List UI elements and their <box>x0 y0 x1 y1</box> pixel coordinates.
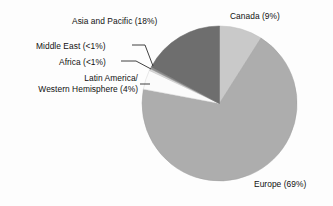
pie-label-latin-america: Latin America/ Western Hemisphere (4%) <box>16 73 138 94</box>
pie-label-latin-america-line2: Western Hemisphere (4%) <box>16 84 138 95</box>
pie-label-europe: Europe (69%) <box>254 179 306 190</box>
pie-label-asia-pacific: Asia and Pacific (18%) <box>72 16 157 27</box>
leader-line-africa <box>121 61 151 69</box>
pie-label-africa: Africa (<1%) <box>59 57 106 68</box>
pie-label-latin-america-line1: Latin America/ <box>16 73 138 84</box>
leader-line-middle-east <box>132 45 153 66</box>
pie-chart: Asia and Pacific (18%) Middle East (<1%)… <box>0 0 333 206</box>
pie-label-middle-east: Middle East (<1%) <box>36 41 106 52</box>
pie-chart-graphic <box>0 0 333 206</box>
pie-label-canada: Canada (9%) <box>230 11 280 22</box>
